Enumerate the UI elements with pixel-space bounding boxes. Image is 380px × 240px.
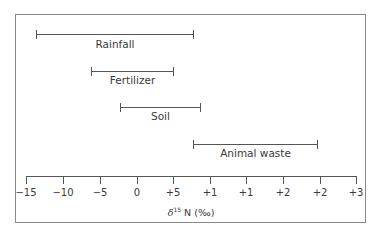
x-tick <box>356 176 357 184</box>
x-tick-label: −5 <box>93 187 108 198</box>
x-tick-label: +3 <box>349 187 364 198</box>
x-tick <box>63 176 64 184</box>
x-tick-label: +1 <box>203 187 218 198</box>
x-tick <box>246 176 247 184</box>
x-tick-label: +5 <box>166 187 181 198</box>
x-tick <box>283 176 284 184</box>
range-bar-soil <box>120 107 201 108</box>
x-tick-label: 0 <box>134 187 140 198</box>
x-tick <box>100 176 101 184</box>
range-bar-fertilizer <box>91 71 174 72</box>
x-tick-label: +2 <box>313 187 328 198</box>
range-label: Fertilizer <box>110 74 155 86</box>
x-tick-label: −10 <box>52 187 73 198</box>
range-label: Rainfall <box>95 38 134 50</box>
range-label: Animal waste <box>220 147 291 159</box>
x-tick-label: +1 <box>239 187 254 198</box>
x-tick <box>210 176 211 184</box>
x-tick-label: −15 <box>15 187 36 198</box>
x-tick <box>173 176 174 184</box>
x-tick-label: +2 <box>276 187 291 198</box>
range-bar-rainfall <box>36 34 194 35</box>
range-bar-animal-waste <box>193 144 318 145</box>
x-axis <box>26 176 357 177</box>
x-tick <box>137 176 138 184</box>
x-tick <box>26 176 27 184</box>
x-tick <box>320 176 321 184</box>
range-label: Soil <box>151 110 170 122</box>
x-axis-label: δ15 N (‰) <box>168 206 215 218</box>
